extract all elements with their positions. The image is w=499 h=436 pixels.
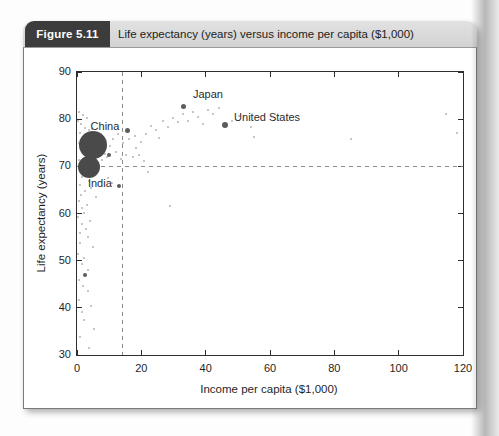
data-point <box>138 154 140 156</box>
data-point <box>122 142 124 144</box>
x-tick-top <box>463 72 464 77</box>
x-tick-label: 60 <box>253 362 287 374</box>
data-point <box>132 156 134 158</box>
data-point <box>88 347 90 349</box>
annotation-china: China <box>91 120 120 132</box>
data-point <box>101 159 103 161</box>
x-tick-top <box>205 72 206 77</box>
y-tick-label: 30 <box>41 348 71 360</box>
data-point <box>162 120 164 122</box>
annotation-japan: Japan <box>193 88 223 100</box>
data-point <box>112 138 114 140</box>
data-point <box>77 253 79 255</box>
accent-data-point <box>83 273 87 277</box>
data-point <box>158 137 160 139</box>
data-point <box>83 212 85 214</box>
data-point <box>81 223 83 225</box>
x-tick-top <box>270 72 271 77</box>
data-point <box>80 194 82 196</box>
data-point <box>147 171 149 173</box>
x-tick-top <box>141 72 142 77</box>
data-point <box>202 123 204 125</box>
data-point <box>77 216 79 218</box>
data-point <box>80 123 82 125</box>
data-point <box>78 279 80 281</box>
figure-title-bar: Figure 5.11 Life expectancy (years) vers… <box>23 21 477 47</box>
accent-data-point <box>125 128 130 133</box>
data-point <box>172 117 174 119</box>
data-point <box>169 205 171 207</box>
y-axis-title-text: Life expectancy (years) <box>35 154 47 273</box>
y-tick-right <box>458 119 463 120</box>
data-point <box>117 133 119 135</box>
y-tick <box>77 260 82 261</box>
y-tick <box>77 72 82 73</box>
data-point <box>120 158 122 160</box>
data-point <box>145 133 147 135</box>
y-tick-label: 90 <box>41 65 71 77</box>
data-point <box>81 311 83 313</box>
data-point <box>93 328 95 330</box>
data-point <box>87 269 89 271</box>
x-tick-label: 40 <box>189 362 223 374</box>
data-point <box>77 120 79 122</box>
data-point <box>109 145 111 147</box>
data-point <box>89 220 91 222</box>
data-point <box>78 111 80 113</box>
labeled-point-japan <box>181 104 186 109</box>
x-tick <box>141 350 142 355</box>
reference-line-horizontal <box>77 166 463 167</box>
x-tick <box>270 350 271 355</box>
data-point <box>231 120 233 122</box>
data-point <box>456 132 458 134</box>
data-point <box>79 232 81 234</box>
x-tick-label: 20 <box>124 362 158 374</box>
data-point <box>79 132 81 134</box>
x-tick-label: 120 <box>446 362 480 374</box>
y-tick-label: 40 <box>41 301 71 313</box>
x-tick-top <box>77 72 78 77</box>
x-axis-title: Income per capita ($1,000) <box>76 383 462 395</box>
data-point <box>128 138 130 140</box>
data-point <box>87 290 89 292</box>
data-point <box>177 121 179 123</box>
data-point <box>212 113 214 115</box>
data-point <box>125 154 127 156</box>
data-point <box>250 126 252 128</box>
y-tick-right <box>458 260 463 261</box>
bubble-india <box>78 156 100 178</box>
figure-title: Life expectancy (years) versus income pe… <box>118 21 471 47</box>
data-point <box>83 257 85 259</box>
bubble-china <box>79 131 107 159</box>
data-point <box>92 246 94 248</box>
data-point <box>78 299 80 301</box>
data-point <box>143 160 145 162</box>
data-point <box>78 200 80 202</box>
y-tick <box>77 307 82 308</box>
x-tick-top <box>398 72 399 77</box>
data-point <box>218 107 220 109</box>
data-point <box>90 305 92 307</box>
data-point <box>253 136 255 138</box>
data-point <box>187 120 189 122</box>
data-point <box>87 236 89 238</box>
data-point <box>135 147 137 149</box>
x-tick-label: 80 <box>317 362 351 374</box>
x-tick-label: 100 <box>382 362 416 374</box>
labeled-point-united-states <box>222 122 228 128</box>
accent-data-point <box>117 184 121 188</box>
data-point <box>350 138 352 140</box>
y-tick-right <box>458 213 463 214</box>
x-tick <box>334 350 335 355</box>
data-point <box>81 263 83 265</box>
y-tick <box>77 213 82 214</box>
reference-line-vertical <box>122 72 123 355</box>
data-point <box>134 135 136 137</box>
data-point <box>79 184 81 186</box>
data-point <box>86 117 88 119</box>
data-point <box>140 141 142 143</box>
figure-number: Figure 5.11 <box>36 28 98 40</box>
x-tick-top <box>334 72 335 77</box>
accent-data-point <box>107 153 111 157</box>
data-point <box>106 156 108 158</box>
